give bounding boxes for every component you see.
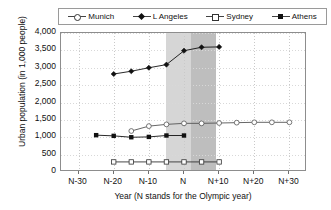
x-axis-label: Year (N stands for the Olympic year) — [60, 191, 306, 201]
x-tick-label: N-30 — [68, 176, 86, 186]
filled-square-icon — [272, 12, 290, 21]
chart-figure: Munich L Angeles Sydney Athens Urban pop… — [0, 0, 331, 210]
chart-legend: Munich L Angeles Sydney Athens — [58, 8, 327, 25]
series-athens — [94, 133, 186, 139]
x-tick-label: N+10 — [208, 176, 229, 186]
legend-item-athens[interactable]: Athens — [272, 12, 317, 21]
legend-item-sydney[interactable]: Sydney — [206, 12, 253, 21]
data-point-marker — [164, 122, 169, 127]
data-point-marker — [112, 134, 116, 138]
data-point-marker — [217, 121, 222, 126]
series-munich — [112, 160, 222, 164]
data-point-marker — [129, 69, 134, 74]
data-point-marker — [199, 160, 203, 164]
y-tick-label: 500 — [42, 149, 56, 158]
data-point-marker — [146, 65, 151, 70]
x-axis-tick-mark — [148, 171, 149, 174]
y-tick-label: 1,500 — [35, 114, 56, 123]
data-point-marker — [182, 133, 186, 137]
data-point-marker — [217, 160, 221, 164]
open-circle-icon — [68, 12, 86, 21]
series-sydney — [129, 120, 292, 133]
x-tick-label: N+30 — [278, 176, 299, 186]
legend-label-athens: Athens — [292, 12, 317, 21]
plot-area — [60, 32, 306, 171]
y-tick-label: 4,000 — [35, 27, 56, 36]
data-series-layer — [61, 33, 306, 171]
x-axis-tick-mark — [113, 171, 114, 174]
x-tick-label: N+20 — [243, 176, 264, 186]
data-point-marker — [164, 160, 168, 164]
series-l-angeles — [111, 44, 222, 76]
data-point-marker — [94, 133, 98, 137]
data-point-marker — [182, 160, 186, 164]
y-tick-label: 0 — [51, 166, 56, 175]
data-point-marker — [199, 45, 204, 50]
data-point-marker — [111, 71, 116, 76]
data-point-marker — [147, 160, 151, 164]
data-point-marker — [217, 44, 222, 49]
x-tick-label: N — [180, 176, 186, 186]
data-point-marker — [147, 135, 151, 139]
data-point-marker — [269, 120, 274, 125]
data-point-marker — [199, 121, 204, 126]
x-tick-label: N-20 — [103, 176, 121, 186]
legend-item-l-angeles[interactable]: L Angeles — [133, 12, 188, 21]
data-point-marker — [252, 120, 257, 125]
legend-label-sydney: Sydney — [226, 12, 253, 21]
y-tick-label: 1,000 — [35, 131, 56, 140]
y-tick-label: 2,000 — [35, 97, 56, 106]
x-axis-tick-mark — [253, 171, 254, 174]
legend-label-l-angeles: L Angeles — [153, 12, 188, 21]
data-point-marker — [129, 160, 133, 164]
x-axis-tick-mark — [78, 171, 79, 174]
y-tick-label: 3,000 — [35, 62, 56, 71]
data-point-marker — [112, 160, 116, 164]
open-square-icon — [206, 12, 224, 21]
x-axis-tick-mark — [218, 171, 219, 174]
data-point-marker — [164, 133, 168, 137]
data-point-marker — [234, 120, 239, 125]
x-tick-label: N-10 — [139, 176, 157, 186]
legend-label-munich: Munich — [88, 12, 114, 21]
filled-diamond-icon — [133, 12, 151, 21]
data-point-marker — [129, 135, 133, 139]
x-axis-ticks: N-30N-20N-10NN+10N+20N+30 — [0, 176, 331, 188]
y-tick-label: 2,500 — [35, 79, 56, 88]
legend-item-munich[interactable]: Munich — [68, 12, 114, 21]
x-axis-tick-mark — [183, 171, 184, 174]
y-tick-label: 3,500 — [35, 44, 56, 53]
data-point-marker — [146, 124, 151, 129]
data-point-marker — [129, 129, 134, 134]
x-axis-tick-mark — [288, 171, 289, 174]
data-point-marker — [182, 121, 187, 126]
data-point-marker — [287, 120, 292, 125]
